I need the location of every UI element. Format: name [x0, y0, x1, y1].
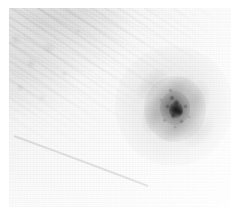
galaxy-nucleus	[169, 102, 183, 118]
galaxy-knot	[159, 98, 163, 102]
galaxy-knot	[168, 88, 173, 93]
galaxy-knot	[187, 115, 191, 119]
galaxy-knot	[179, 119, 184, 124]
galaxy-knot	[162, 118, 167, 123]
image-canvas	[0, 0, 239, 224]
astronomical-image-frame	[9, 8, 231, 207]
galaxy-knot	[173, 125, 177, 129]
galaxy-knot	[183, 104, 188, 109]
